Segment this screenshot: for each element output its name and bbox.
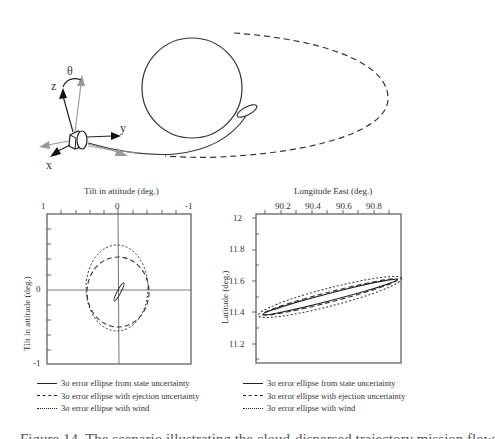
dotted-line-swatch-icon — [37, 408, 57, 409]
dashed-transfer-ellipse — [165, 33, 388, 157]
left-ytick-neg1: -1 — [33, 358, 41, 368]
state-ellipse-geo — [262, 276, 397, 318]
dashed-line-swatch-icon — [243, 395, 263, 396]
legend-item: 3σ error ellipse from state uncertainty — [243, 377, 405, 390]
left-ytick-0: 0 — [36, 284, 41, 294]
legend-right: 3σ error ellipse from state uncertainty … — [243, 377, 405, 415]
dotted-line-swatch-icon — [243, 408, 263, 409]
solid-line-swatch-icon — [243, 383, 263, 384]
right-plot-top-label: Longitude East (deg.) — [294, 186, 372, 196]
right-ytick-11-2: 11.2 — [229, 339, 244, 349]
wind-ellipse — [86, 245, 148, 331]
left-xtick-1: 1 — [41, 201, 46, 211]
state-ellipse — [113, 282, 126, 301]
right-xtick-90-2: 90.2 — [275, 201, 291, 211]
legend-item: 3σ error ellipse with ejection uncertain… — [243, 390, 405, 403]
axis-label-theta: θ — [67, 64, 73, 79]
right-xtick-90-4: 90.4 — [305, 201, 321, 211]
ejection-ellipse-geo — [261, 275, 399, 320]
mission-diagram — [0, 0, 431, 200]
right-ytick-12: 12 — [233, 213, 242, 223]
left-plot-top-label: Tilt in attitude (deg.) — [84, 186, 159, 196]
right-plot-ylabel: Latitude (deg.) — [220, 271, 230, 324]
orbit-circle — [142, 38, 242, 138]
legend-left: 3σ error ellipse from state uncertainty … — [37, 377, 199, 415]
dashed-line-swatch-icon — [37, 395, 57, 396]
right-ytick-11-6: 11.6 — [229, 276, 244, 286]
axis-label-x: x — [46, 158, 52, 173]
ejection-ellipse — [87, 257, 149, 327]
figure-caption: Figure 14. The scenario illustrating the… — [20, 428, 495, 439]
left-xtick-0: 0 — [115, 201, 120, 211]
axis-label-y: y — [120, 121, 126, 136]
wind-ellipse-geo — [256, 270, 404, 324]
left-plot-ylabel: Tilt in attitude (deg.) — [22, 276, 32, 351]
right-ytick-11-8: 11.8 — [229, 244, 244, 254]
legend-item: 3σ error ellipse with wind — [243, 402, 405, 415]
axis-label-z: z — [51, 79, 56, 94]
right-ytick-11-4: 11.4 — [229, 307, 244, 317]
legend-item: 3σ error ellipse from state uncertainty — [37, 377, 199, 390]
legend-item: 3σ error ellipse with wind — [37, 402, 199, 415]
solid-line-swatch-icon — [37, 383, 57, 384]
spacecraft-body — [69, 131, 87, 149]
legend-item: 3σ error ellipse with ejection uncertain… — [37, 390, 199, 403]
right-xtick-90-8: 90.8 — [366, 201, 382, 211]
left-xtick-neg1: -1 — [185, 201, 193, 211]
right-xtick-90-6: 90.6 — [336, 201, 352, 211]
